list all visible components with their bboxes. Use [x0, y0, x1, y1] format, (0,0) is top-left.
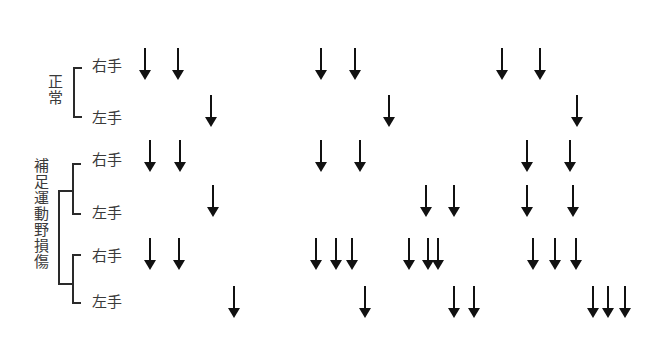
group-label-normal: 正常 [46, 74, 62, 106]
down-arrow-icon [359, 286, 371, 318]
down-arrow-icon [346, 238, 358, 270]
down-arrow-icon [527, 238, 539, 270]
down-arrow-icon [315, 140, 327, 172]
down-arrow-icon [383, 95, 395, 127]
bracket-lesion-inner2-vertical [72, 254, 74, 303]
bracket-normal-bottom-tick [73, 116, 82, 118]
down-arrow-icon [496, 48, 508, 80]
down-arrow-icon [310, 238, 322, 270]
down-arrow-icon [349, 48, 361, 80]
down-arrow-icon [534, 48, 546, 80]
bracket-normal-vertical [73, 67, 75, 117]
down-arrow-icon [144, 140, 156, 172]
down-arrow-icon [567, 185, 579, 217]
down-arrow-icon [354, 140, 366, 172]
row-label-normal-right: 右手 [92, 57, 122, 75]
bracket-normal-top-tick [73, 67, 82, 69]
group-label-sma-lesion: 補足運動野損傷 [32, 158, 48, 270]
bracket-lesion-outer-bottom [58, 283, 73, 285]
down-arrow-icon [619, 286, 631, 318]
bracket-lesion-inner2-bottom-tick [72, 302, 81, 304]
down-arrow-icon [205, 95, 217, 127]
down-arrow-icon [228, 286, 240, 318]
down-arrow-icon [521, 185, 533, 217]
down-arrow-icon [144, 238, 156, 270]
timing-diagram: 正常 補足運動野損傷 右手 左手 右手 左手 右手 左手 [0, 0, 670, 338]
bracket-lesion-inner2-top-tick [72, 254, 81, 256]
down-arrow-icon [587, 286, 599, 318]
bracket-lesion-outer-vertical [58, 190, 60, 284]
bracket-lesion-inner1-bottom-tick [72, 213, 81, 215]
down-arrow-icon [448, 185, 460, 217]
down-arrow-icon [330, 238, 342, 270]
down-arrow-icon [174, 140, 186, 172]
row-label-lesion-left-1: 左手 [92, 204, 122, 222]
row-label-lesion-right-1: 右手 [92, 151, 122, 169]
down-arrow-icon [173, 238, 185, 270]
down-arrow-icon [602, 286, 614, 318]
row-label-lesion-right-2: 右手 [92, 247, 122, 265]
bracket-lesion-inner1-top-tick [72, 163, 81, 165]
down-arrow-icon [432, 238, 444, 270]
down-arrow-icon [403, 238, 415, 270]
down-arrow-icon [549, 238, 561, 270]
down-arrow-icon [172, 48, 184, 80]
down-arrow-icon [571, 95, 583, 127]
down-arrow-icon [139, 48, 151, 80]
bracket-lesion-outer-top [58, 190, 73, 192]
row-label-lesion-left-2: 左手 [92, 293, 122, 311]
down-arrow-icon [315, 48, 327, 80]
down-arrow-icon [420, 185, 432, 217]
down-arrow-icon [521, 140, 533, 172]
bracket-lesion-inner1-vertical [72, 163, 74, 214]
down-arrow-icon [448, 286, 460, 318]
down-arrow-icon [207, 185, 219, 217]
down-arrow-icon [468, 286, 480, 318]
down-arrow-icon [570, 238, 582, 270]
row-label-normal-left: 左手 [92, 109, 122, 127]
down-arrow-icon [564, 140, 576, 172]
